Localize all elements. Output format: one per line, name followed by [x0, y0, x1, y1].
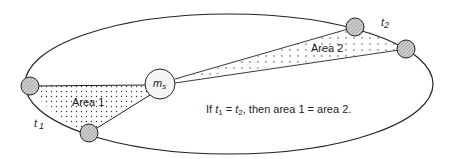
- planet-position-2b: [397, 40, 415, 58]
- area-2-label: Area 2: [311, 42, 343, 54]
- kepler-diagram: ms Area 1 Area 2 t1 t2 If t1 = t2, then …: [0, 0, 458, 159]
- equal-areas-statement: If t1 = t2, then area 1 = area 2.: [206, 103, 351, 117]
- planet-position-2a: [346, 18, 364, 36]
- area-2-region: [175, 27, 406, 80]
- area-1-label: Area 1: [72, 96, 104, 108]
- planet-position-1a: [21, 77, 39, 95]
- t2-label: t2: [381, 16, 389, 30]
- planet-position-1b: [80, 124, 98, 142]
- t1-label: t1: [34, 117, 44, 131]
